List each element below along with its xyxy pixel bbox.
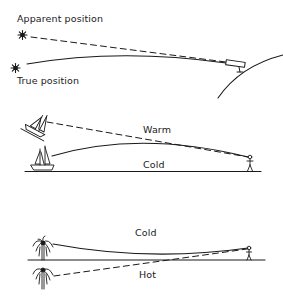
- label-cold-layer: Cold: [135, 228, 157, 238]
- true-star-icon: [11, 64, 20, 73]
- refraction-diagram: [0, 0, 283, 304]
- palm-tree-icon: [33, 236, 53, 260]
- apparent-star-icon: [18, 31, 27, 40]
- panel-astronomical-refraction: [11, 31, 283, 99]
- observer-icon: [247, 155, 253, 171]
- label-hot-layer: Hot: [139, 270, 156, 280]
- label-warm-layer: Warm: [143, 125, 171, 135]
- true-light-path: [27, 56, 226, 64]
- observer-icon: [247, 246, 252, 260]
- telescope-icon: [226, 60, 246, 72]
- panel-inferior-mirage: [28, 236, 265, 289]
- mirage-palm-tree-icon: [33, 268, 53, 289]
- panel-superior-mirage: [21, 108, 261, 172]
- label-true-position: True position: [17, 76, 79, 86]
- label-apparent-position: Apparent position: [17, 14, 103, 24]
- apparent-ship-icon: [21, 108, 55, 141]
- apparent-sightline: [31, 37, 226, 62]
- true-light-path: [53, 244, 248, 254]
- label-cold-layer: Cold: [143, 160, 165, 170]
- real-ship-icon: [31, 146, 54, 170]
- true-light-path: [52, 143, 248, 157]
